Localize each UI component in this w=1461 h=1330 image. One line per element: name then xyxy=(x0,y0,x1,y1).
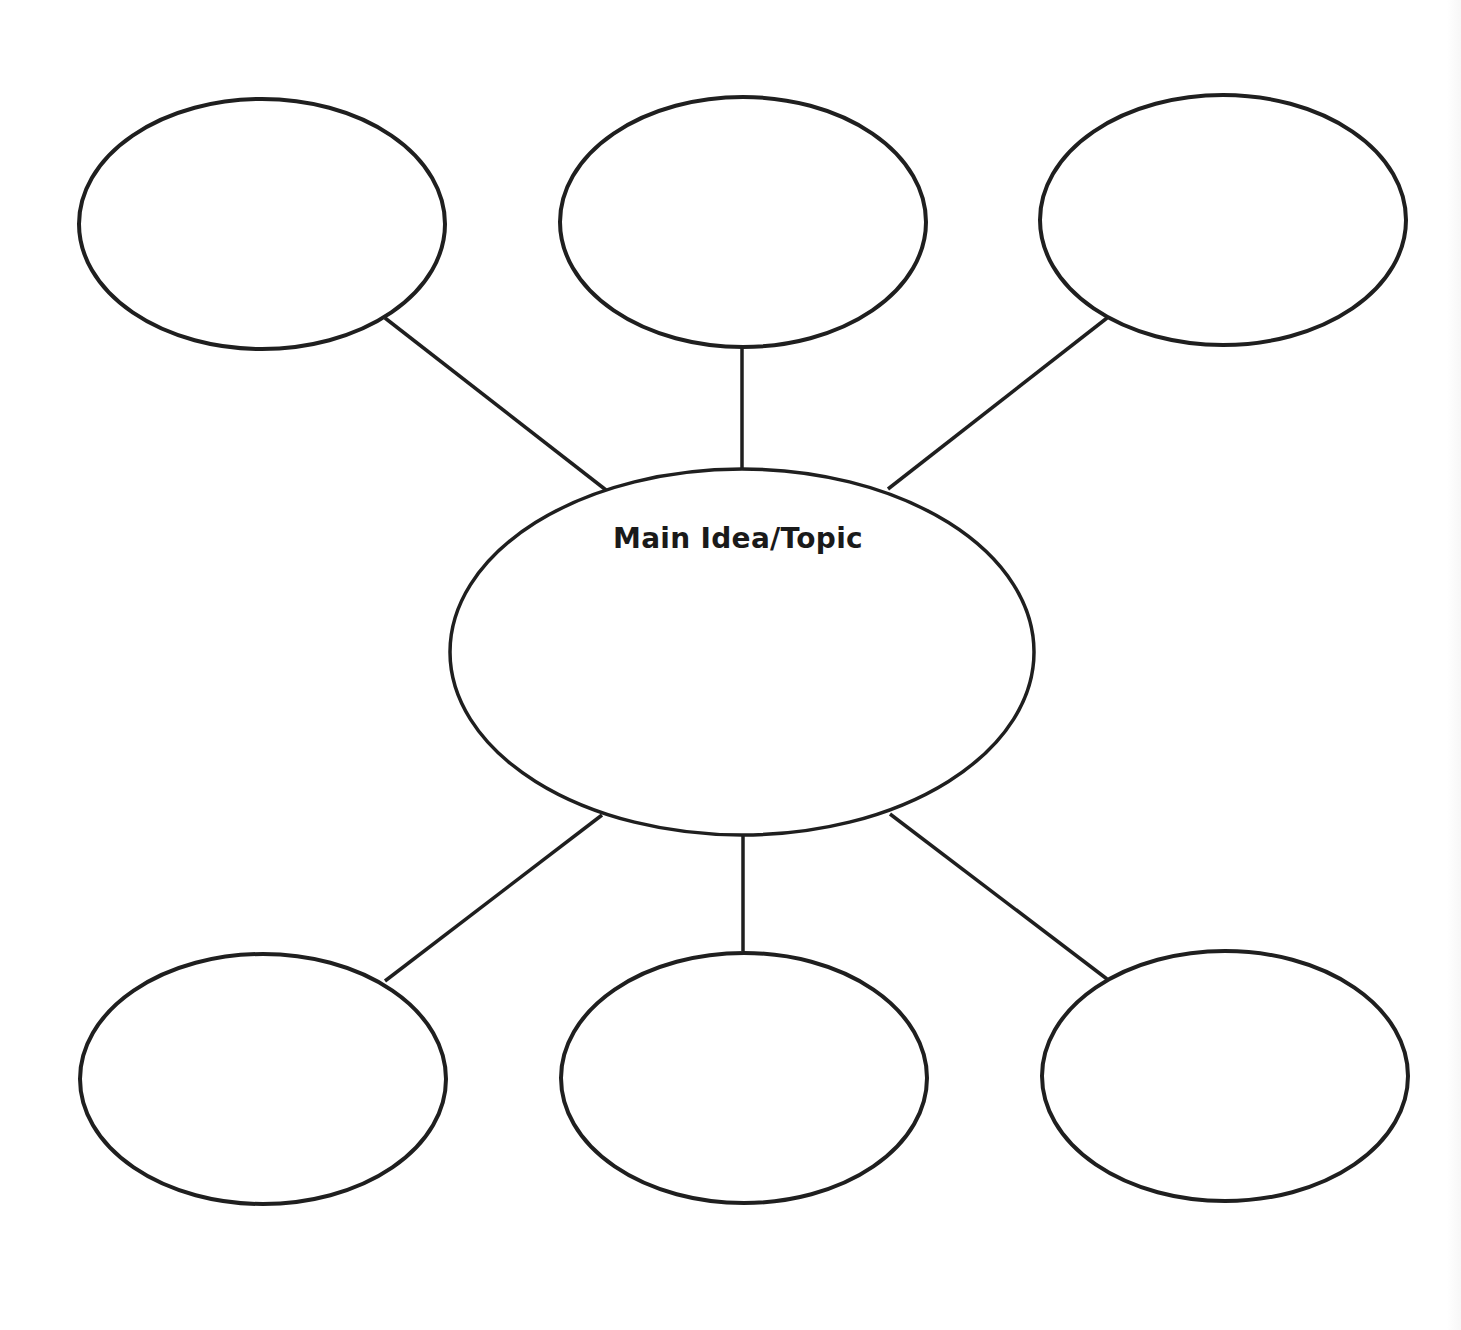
detail-bubble-top-right xyxy=(1040,95,1406,345)
detail-bubble-bottom-right xyxy=(1042,951,1408,1201)
bubble-nodes xyxy=(79,95,1408,1204)
connector-main-bottom-right xyxy=(890,814,1107,979)
connector-top-left-main xyxy=(385,318,606,490)
main-idea-label: Main Idea/Topic xyxy=(588,519,888,559)
diagram-canvas: Main Idea/Topic xyxy=(0,0,1461,1330)
detail-bubble-top-middle xyxy=(560,97,926,347)
bubble-map-diagram xyxy=(0,0,1461,1330)
connector-top-right-main xyxy=(888,318,1107,489)
connector-lines xyxy=(385,318,1107,981)
detail-bubble-top-left xyxy=(79,99,445,349)
connector-main-bottom-left xyxy=(385,815,602,981)
detail-bubble-bottom-left xyxy=(80,954,446,1204)
detail-bubble-bottom-middle xyxy=(561,953,927,1203)
